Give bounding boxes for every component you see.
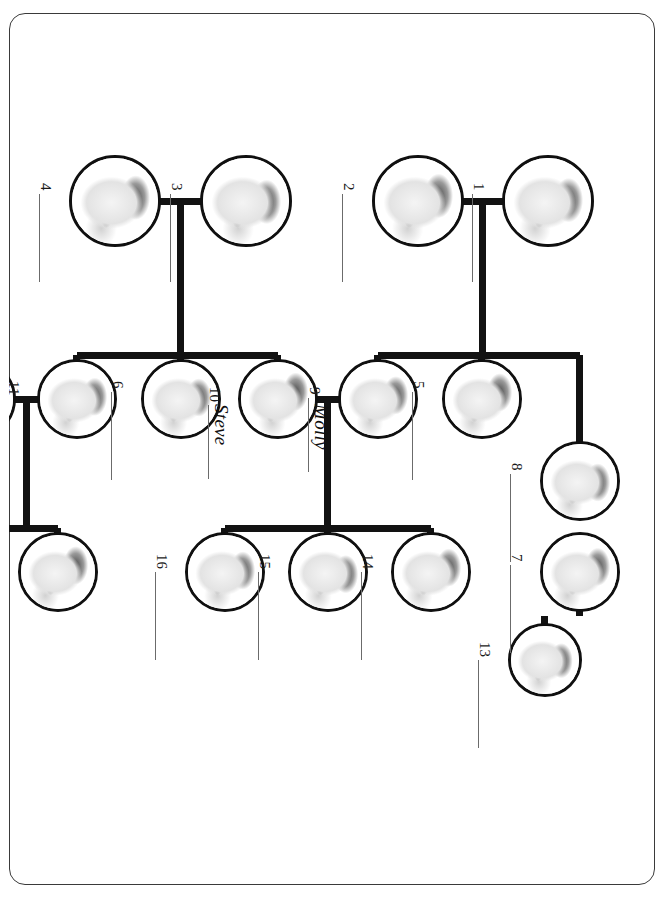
person-number-11: 11 xyxy=(9,381,20,395)
person-number-14: 14 xyxy=(361,554,374,569)
person-portrait-icon xyxy=(375,158,461,244)
person-portrait-icon xyxy=(241,362,315,436)
person-portrait-icon xyxy=(188,535,262,609)
person-label-11: 11 xyxy=(9,381,20,486)
person-number-15: 15 xyxy=(258,554,271,569)
person-node-10[interactable] xyxy=(238,359,318,439)
person-label-6: 6 xyxy=(111,381,124,480)
person-portrait-icon xyxy=(543,444,617,518)
person-label-2: 2 xyxy=(342,183,355,282)
person-number-5: 5 xyxy=(412,381,425,389)
person-portrait-icon xyxy=(341,362,415,436)
person-portrait-icon xyxy=(203,158,289,244)
person-portrait-icon xyxy=(543,535,617,609)
person-portrait-icon xyxy=(72,158,158,244)
person-label-9: 9Molly xyxy=(308,387,321,472)
person-name-blank-1[interactable] xyxy=(472,194,473,282)
person-label-5: 5 xyxy=(412,381,425,480)
person-node-4[interactable] xyxy=(69,155,161,247)
person-portrait-icon xyxy=(291,535,365,609)
person-number-3: 3 xyxy=(170,183,183,191)
person-name-9: Molly xyxy=(310,404,332,450)
person-portrait-icon xyxy=(394,535,468,609)
person-node-17[interactable] xyxy=(18,532,98,612)
worksheet-page: 123456789Molly10Steve1112131415161718 xyxy=(0,0,664,901)
person-node-9[interactable] xyxy=(338,359,418,439)
person-node-16[interactable] xyxy=(185,532,265,612)
person-number-8: 8 xyxy=(510,463,523,471)
person-number-10: 10 xyxy=(208,387,221,402)
person-name-blank-8[interactable] xyxy=(510,474,511,562)
person-name-10: Steve xyxy=(210,404,232,446)
person-portrait-icon xyxy=(40,362,114,436)
person-name-blank-5[interactable] xyxy=(412,392,413,480)
person-label-16: 16 xyxy=(155,554,168,660)
person-node-11[interactable] xyxy=(37,359,117,439)
descent-stem-11-12 xyxy=(23,399,30,528)
person-node-2[interactable] xyxy=(372,155,464,247)
person-number-9: 9 xyxy=(308,387,321,395)
person-label-3: 3 xyxy=(170,183,183,282)
person-number-16: 16 xyxy=(155,554,168,569)
person-number-6: 6 xyxy=(111,381,124,389)
person-number-1: 1 xyxy=(472,183,485,191)
person-portrait-icon xyxy=(505,158,591,244)
person-name-blank-9[interactable] xyxy=(308,398,309,472)
person-portrait-icon xyxy=(445,362,519,436)
person-label-1: 1 xyxy=(472,183,485,282)
person-number-2: 2 xyxy=(342,183,355,191)
person-name-blank-4[interactable] xyxy=(39,194,40,282)
person-name-blank-15[interactable] xyxy=(258,572,259,660)
person-node-8[interactable] xyxy=(540,441,620,521)
person-node-15[interactable] xyxy=(288,532,368,612)
person-name-blank-10[interactable] xyxy=(208,405,209,479)
person-label-10: 10Steve xyxy=(208,387,221,479)
person-name-blank-7[interactable] xyxy=(510,565,511,653)
person-number-4: 4 xyxy=(39,183,52,191)
person-label-7: 7 xyxy=(510,554,523,653)
person-label-15: 15 xyxy=(258,554,271,660)
person-label-4: 4 xyxy=(39,183,52,282)
person-label-13: 13 xyxy=(478,642,491,748)
sibling-bus-11-12 xyxy=(9,525,58,532)
person-name-blank-3[interactable] xyxy=(170,194,171,282)
person-node-14[interactable] xyxy=(391,532,471,612)
person-name-blank-16[interactable] xyxy=(155,572,156,660)
person-node-5[interactable] xyxy=(442,359,522,439)
diagram-viewport: 123456789Molly10Steve1112131415161718 xyxy=(9,13,655,885)
child-link-8 xyxy=(577,355,584,444)
person-name-blank-14[interactable] xyxy=(361,572,362,660)
page-top-note xyxy=(8,0,308,8)
person-number-13: 13 xyxy=(478,642,491,657)
person-portrait-icon xyxy=(21,535,95,609)
person-name-blank-6[interactable] xyxy=(111,392,112,480)
person-name-blank-13[interactable] xyxy=(478,660,479,748)
person-label-8: 8 xyxy=(510,463,523,562)
person-node-1[interactable] xyxy=(502,155,594,247)
person-node-7[interactable] xyxy=(540,532,620,612)
person-name-blank-2[interactable] xyxy=(342,194,343,282)
family-tree-canvas: 123456789Molly10Steve1112131415161718 xyxy=(9,13,655,885)
person-label-14: 14 xyxy=(361,554,374,660)
person-node-3[interactable] xyxy=(200,155,292,247)
